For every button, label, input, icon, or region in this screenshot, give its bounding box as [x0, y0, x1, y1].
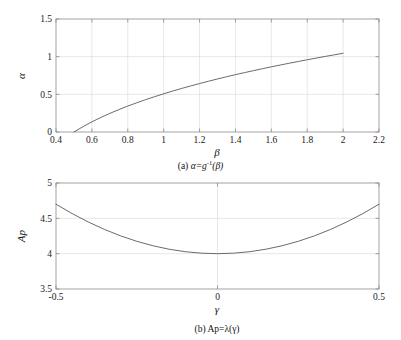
svg-text:1.5: 1.5 — [40, 14, 52, 24]
panel-a-ticks — [56, 19, 379, 132]
panel-b-grid — [56, 183, 379, 289]
panel-a-axis-frame — [56, 19, 379, 132]
panel-b-yaxis-title: Ap — [15, 229, 27, 243]
svg-text:1: 1 — [47, 52, 52, 62]
figure-container: 0.40.60.811.21.41.61.822.2 00.511.5 β α … — [0, 0, 401, 340]
svg-text:3.5: 3.5 — [40, 284, 52, 294]
svg-text:1.6: 1.6 — [265, 135, 277, 145]
svg-text:4.5: 4.5 — [40, 214, 52, 224]
panel-b: -0.500.5 3.544.55 γ Ap (b) Ap=λ(γ) — [0, 165, 401, 340]
panel-a-svg: 0.40.60.811.21.41.61.822.2 00.511.5 β α — [0, 0, 401, 175]
svg-text:2.2: 2.2 — [373, 135, 385, 145]
svg-text:0.8: 0.8 — [122, 135, 134, 145]
svg-text:1.8: 1.8 — [301, 135, 313, 145]
svg-text:4: 4 — [47, 249, 52, 259]
svg-text:0: 0 — [47, 127, 52, 137]
svg-text:1.4: 1.4 — [230, 135, 242, 145]
panel-a-ytick-labels: 00.511.5 — [40, 14, 52, 137]
panel-a-xtick-labels: 0.40.60.811.21.41.61.822.2 — [50, 135, 385, 145]
svg-text:1.2: 1.2 — [194, 135, 206, 145]
panel-a-xaxis-title: β — [213, 146, 220, 158]
svg-text:0.5: 0.5 — [40, 90, 52, 100]
svg-text:1: 1 — [161, 135, 166, 145]
panel-b-svg: -0.500.5 3.544.55 γ Ap (b) Ap=λ(γ) — [0, 165, 401, 340]
panel-a-curve — [74, 53, 343, 132]
panel-b-xaxis-title: γ — [215, 303, 220, 315]
svg-text:2: 2 — [341, 135, 346, 145]
panel-a: 0.40.60.811.21.41.61.822.2 00.511.5 β α — [0, 0, 401, 175]
svg-text:0: 0 — [215, 292, 220, 302]
svg-text:0.6: 0.6 — [86, 135, 98, 145]
panel-a-yaxis-title: α — [15, 73, 27, 79]
svg-text:0.5: 0.5 — [373, 292, 385, 302]
panel-b-caption: (b) Ap=λ(γ) — [194, 324, 239, 335]
panel-a-grid — [56, 19, 379, 132]
panel-b-ytick-labels: 3.544.55 — [40, 178, 52, 294]
svg-text:5: 5 — [47, 178, 52, 188]
panel-b-xtick-labels: -0.500.5 — [48, 292, 385, 302]
